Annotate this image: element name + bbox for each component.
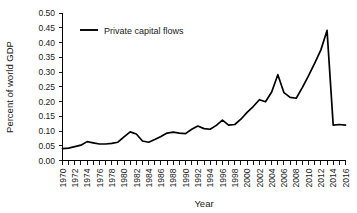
legend-label-private-capital-flows: Private capital flows [104,26,184,36]
y-tick-label: 0.35 [38,52,55,62]
x-tick-label: 1994 [205,168,215,187]
x-tick-marks [63,161,346,165]
x-tick-label: 2008 [291,168,301,187]
y-tick-label: 0.05 [38,141,55,151]
x-tick-label: 2006 [279,168,289,187]
x-tick-label: 1972 [70,168,80,187]
x-tick-label: 2010 [304,168,314,187]
x-tick-label: 1976 [95,168,105,187]
x-tick-label: 1980 [119,168,129,187]
y-tick-label: 0.15 [38,111,55,121]
x-axis-title: Year [194,198,213,209]
x-tick-label: 1984 [144,168,154,187]
x-tick-label: 1996 [218,168,228,187]
y-tick-label: 0.10 [38,126,55,136]
x-tick-label: 2012 [316,168,326,187]
x-tick-label: 1990 [181,168,191,187]
chart-legend: Private capital flows [80,26,184,36]
line-chart: 0.00 0.05 0.10 0.15 0.20 0.25 0.30 0.35 … [0,0,357,213]
x-tick-label: 1970 [58,168,68,187]
y-axis-title: Percent of world GDP [4,41,15,133]
y-tick-label: 0.40 [38,38,55,48]
y-tick-label: 0.50 [38,8,55,18]
x-tick-label: 2000 [242,168,252,187]
y-tick-labels: 0.00 0.05 0.10 0.15 0.20 0.25 0.30 0.35 … [38,8,55,166]
x-tick-label: 1978 [107,168,117,187]
x-tick-label: 2004 [267,168,277,187]
x-tick-label: 2002 [255,168,265,187]
x-tick-label: 1998 [230,168,240,187]
data-line-private-capital-flows [63,30,346,148]
x-tick-labels: 1970197219741976197819801982198419861988… [58,168,351,187]
x-tick-label: 1986 [156,168,166,187]
y-tick-label: 0.00 [38,156,55,166]
x-tick-label: 1982 [132,168,142,187]
x-tick-label: 1974 [82,168,92,187]
x-tick-label: 2014 [328,168,338,187]
y-tick-label: 0.45 [38,23,55,33]
x-tick-label: 1988 [168,168,178,187]
y-tick-marks [59,13,63,161]
y-tick-label: 0.30 [38,67,55,77]
chart-figure: 0.00 0.05 0.10 0.15 0.20 0.25 0.30 0.35 … [0,0,357,213]
x-tick-label: 1992 [193,168,203,187]
y-tick-label: 0.20 [38,97,55,107]
x-tick-label: 2016 [341,168,351,187]
y-tick-label: 0.25 [38,82,55,92]
